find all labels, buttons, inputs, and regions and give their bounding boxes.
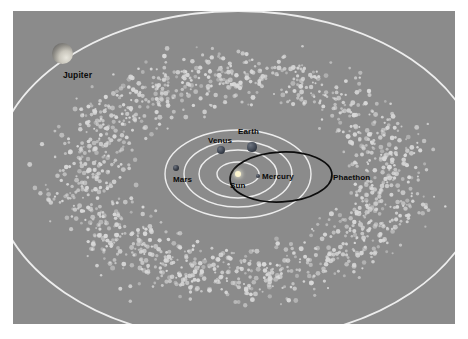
mercury-label: Mercury — [262, 172, 294, 181]
earth-body — [247, 142, 256, 151]
earth-label: Earth — [238, 127, 259, 136]
diagram-plate: Sun MercuryVenusEarthMarsJupiter Phaetho… — [13, 11, 455, 324]
orbit-scene — [13, 11, 455, 324]
venus-label: Venus — [208, 136, 232, 145]
solar-system-figure: Sun MercuryVenusEarthMarsJupiter Phaetho… — [0, 0, 468, 339]
jupiter-label: Jupiter — [63, 71, 92, 80]
mars-label: Mars — [173, 175, 192, 184]
sun-label: Sun — [230, 181, 245, 190]
jupiter-body — [52, 43, 73, 64]
phaethon-label: Phaethon — [333, 173, 370, 182]
mercury-body — [256, 174, 260, 178]
